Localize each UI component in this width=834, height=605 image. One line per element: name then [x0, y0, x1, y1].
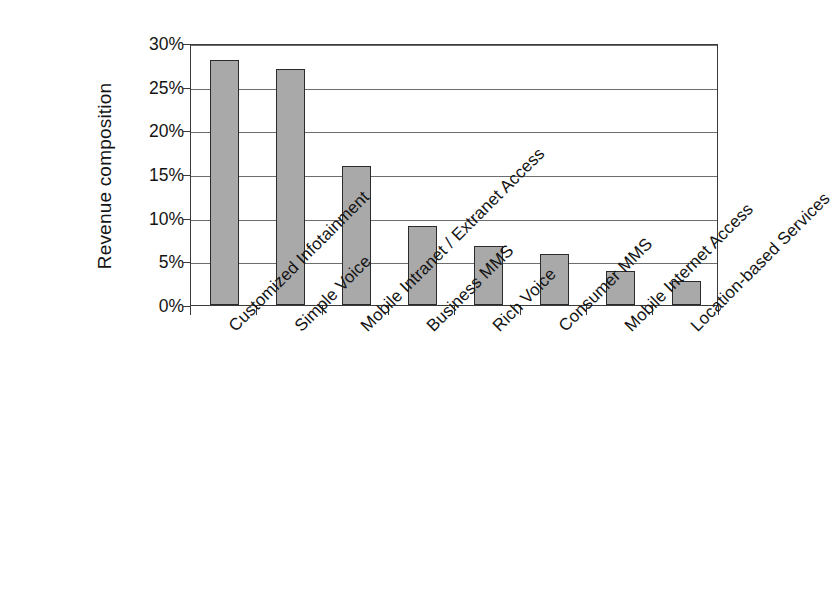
y-axis-tick-label: 10%: [130, 208, 184, 229]
gridline: [191, 176, 717, 177]
gridline: [191, 89, 717, 90]
y-axis-tick-label: 0%: [130, 296, 184, 317]
y-axis-tick-label: 25%: [130, 77, 184, 98]
x-axis-tick-mark: [190, 306, 191, 315]
bar: [210, 60, 239, 305]
gridline: [191, 45, 717, 46]
y-axis-tick-label: 30%: [130, 34, 184, 55]
gridline: [191, 220, 717, 221]
y-axis-tick-label: 5%: [130, 252, 184, 273]
gridline: [191, 132, 717, 133]
y-axis-tick-label: 15%: [130, 165, 184, 186]
y-axis-tick-label: 20%: [130, 121, 184, 142]
plot-area: [190, 44, 718, 306]
y-axis-title: Revenue composition: [88, 45, 122, 307]
y-axis-title-text: Revenue composition: [94, 83, 116, 270]
